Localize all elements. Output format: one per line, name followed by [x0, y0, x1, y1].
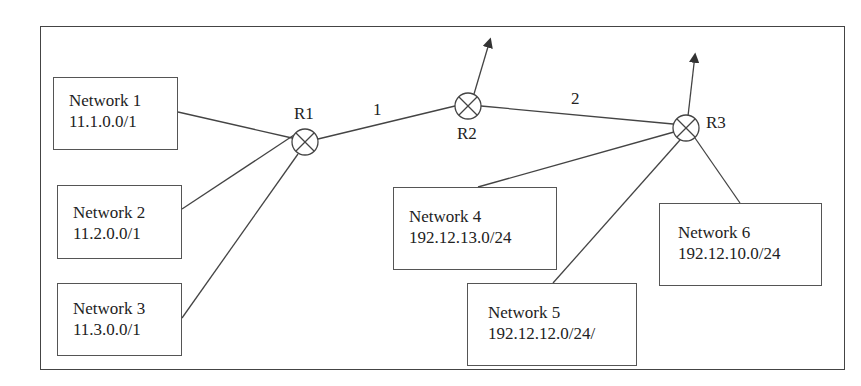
network-6-box: Network 6 192.12.10.0/24 — [659, 203, 822, 286]
link-network2-r1 — [182, 135, 294, 209]
network-2-prefix: 11.2.0.0/1 — [73, 223, 181, 244]
link-network3-r1 — [182, 154, 298, 318]
network-2-name: Network 2 — [73, 202, 181, 223]
link-network1-r1 — [178, 112, 292, 138]
network-4-box: Network 4 192.12.13.0/24 — [393, 187, 557, 270]
link-r3-network4 — [478, 132, 674, 187]
r2-external-arrow — [474, 40, 490, 94]
r3-external-arrow — [688, 55, 695, 116]
network-5-box: Network 5 192.12.12.0/24/ — [467, 283, 637, 366]
link-1-label: 1 — [373, 100, 382, 120]
router-r3-label: R3 — [706, 113, 726, 133]
network-1-name: Network 1 — [69, 90, 177, 111]
router-r2-icon — [455, 93, 481, 119]
network-1-box: Network 1 11.1.0.0/1 — [53, 77, 178, 150]
router-r1-icon — [292, 129, 318, 155]
network-5-prefix: 192.12.12.0/24/ — [488, 323, 636, 344]
network-1-prefix: 11.1.0.0/1 — [69, 111, 177, 132]
link-1-r1-r2 — [318, 106, 455, 139]
network-4-prefix: 192.12.13.0/24 — [409, 227, 556, 248]
network-6-name: Network 6 — [678, 222, 821, 243]
network-4-name: Network 4 — [409, 206, 556, 227]
link-2-label: 2 — [571, 89, 580, 109]
network-6-prefix: 192.12.10.0/24 — [678, 243, 821, 264]
router-r3-icon — [673, 115, 699, 141]
router-r1-label: R1 — [294, 104, 314, 124]
network-2-box: Network 2 11.2.0.0/1 — [57, 185, 182, 259]
network-3-prefix: 11.3.0.0/1 — [73, 319, 181, 340]
link-r3-network6 — [695, 138, 740, 203]
network-5-name: Network 5 — [488, 302, 636, 323]
network-3-name: Network 3 — [73, 298, 181, 319]
router-r2-label: R2 — [457, 124, 477, 144]
network-3-box: Network 3 11.3.0.0/1 — [57, 283, 182, 356]
